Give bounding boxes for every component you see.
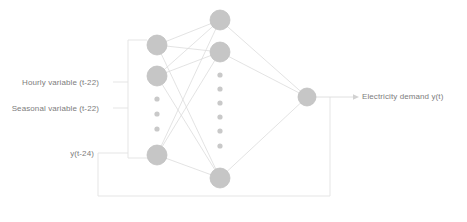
output-arrow xyxy=(316,94,359,99)
hidden-ellipsis-dot-4 xyxy=(217,114,222,119)
edge-h3-out xyxy=(220,97,307,178)
edge-in2-h3 xyxy=(157,76,220,178)
input-label-hourly: Hourly variable (t-22) xyxy=(22,78,99,88)
output-label: Electricity demand y(t) xyxy=(362,92,443,102)
input-ellipsis-dot-3 xyxy=(154,126,159,131)
input-ellipsis-dot-1 xyxy=(154,96,159,101)
input-node-2[interactable] xyxy=(147,66,167,86)
input-layer-ellipsis xyxy=(154,96,159,131)
input-node-3[interactable] xyxy=(147,145,167,165)
edge-group-hidden-to-output xyxy=(220,20,307,178)
output-arrow-head xyxy=(353,94,359,99)
hidden-ellipsis-dot-2 xyxy=(217,86,222,91)
output-node-1[interactable] xyxy=(298,88,316,106)
hidden-ellipsis-dot-1 xyxy=(217,72,222,77)
input-layer xyxy=(147,35,167,165)
feedback-label: y(t-24) xyxy=(70,149,94,159)
input-node-1[interactable] xyxy=(147,35,167,55)
hidden-node-1[interactable] xyxy=(210,10,230,30)
hidden-ellipsis-dot-6 xyxy=(217,143,222,148)
diagram-canvas: Hourly variable (t-22) Seasonal variable… xyxy=(0,0,467,222)
input-bracket xyxy=(113,40,147,158)
hidden-ellipsis-dot-5 xyxy=(217,128,222,133)
hidden-layer-ellipsis xyxy=(217,72,222,148)
input-label-seasonal: Seasonal variable (t-22) xyxy=(12,104,99,114)
edge-in3-h1 xyxy=(157,20,220,155)
hidden-node-2[interactable] xyxy=(210,42,230,62)
hidden-layer xyxy=(210,10,230,188)
hidden-ellipsis-dot-3 xyxy=(217,100,222,105)
output-layer xyxy=(298,88,316,106)
hidden-node-3[interactable] xyxy=(210,168,230,188)
input-ellipsis-dot-2 xyxy=(154,111,159,116)
